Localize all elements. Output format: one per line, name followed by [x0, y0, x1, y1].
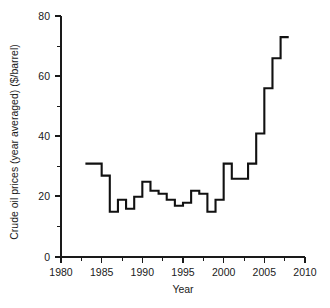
y-tick-label-0: 0 — [44, 251, 50, 263]
figure-caption — [10, 299, 324, 308]
x-tick-label-2000: 2000 — [212, 266, 236, 278]
x-tick-label-1990: 1990 — [131, 266, 155, 278]
x-tick-label-2005: 2005 — [253, 266, 277, 278]
x-tick-label-1995: 1995 — [171, 266, 195, 278]
y-tick-label-60: 60 — [38, 70, 50, 82]
x-axis-major-ticks — [61, 257, 305, 263]
x-axis-tick-labels: 1980 1985 1990 1995 2000 2005 2010 — [49, 266, 317, 278]
y-tick-label-20: 20 — [38, 190, 50, 202]
chart-figure: Crude oil prices (year averaged) ($/barr… — [0, 0, 330, 308]
x-axis-title: Year — [172, 283, 194, 295]
y-axis-major-ticks — [55, 16, 61, 257]
crude-oil-price-series — [85, 37, 288, 212]
x-tick-label-1980: 1980 — [49, 266, 73, 278]
y-tick-label-80: 80 — [38, 10, 50, 22]
x-tick-label-2010: 2010 — [293, 266, 317, 278]
y-axis-tick-labels: 80 60 40 20 0 — [38, 10, 50, 263]
x-tick-label-1985: 1985 — [90, 266, 114, 278]
crude-oil-price-step-chart: Crude oil prices (year averaged) ($/barr… — [0, 0, 330, 308]
y-axis-title: Crude oil prices (year averaged) ($/barr… — [8, 44, 20, 240]
y-tick-label-40: 40 — [38, 130, 50, 142]
